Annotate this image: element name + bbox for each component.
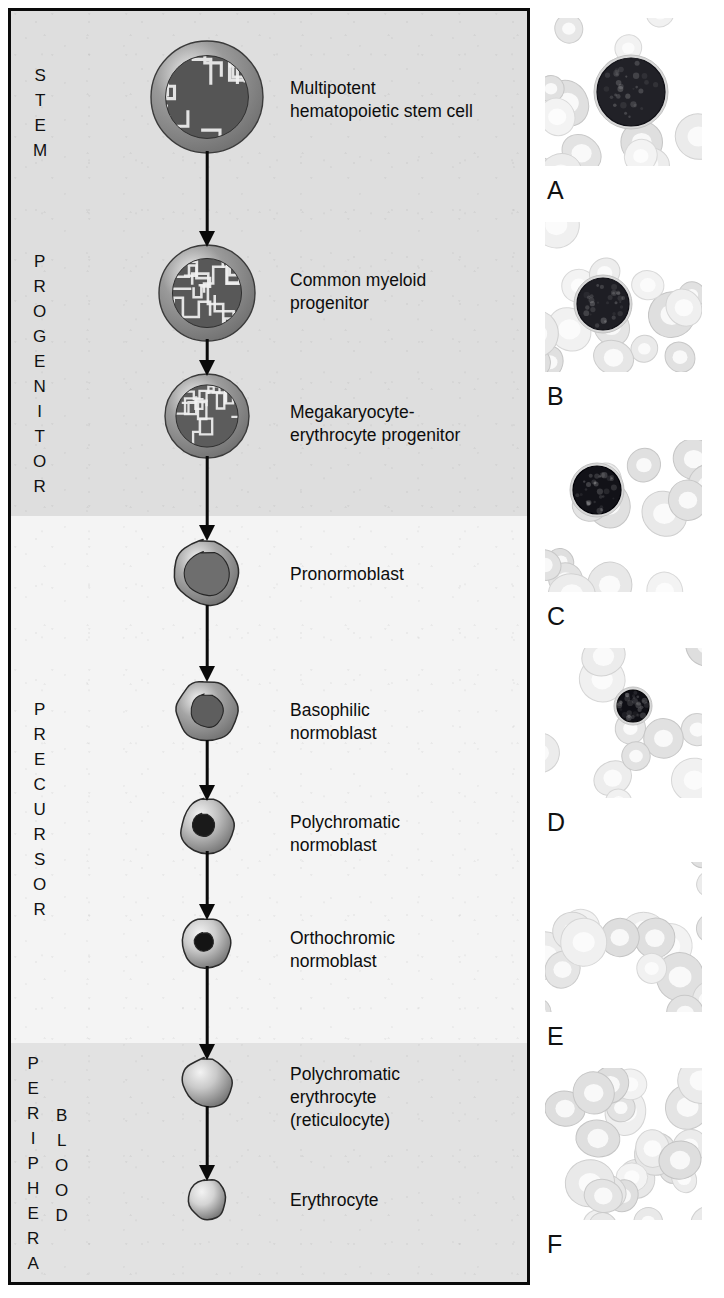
zone-letter: I xyxy=(31,1126,36,1151)
zone-letter: B xyxy=(56,1103,67,1128)
micrograph-canvas xyxy=(545,440,702,592)
cell-label-erythrocyte: Erythrocyte xyxy=(290,1189,379,1212)
micrograph-panel-e xyxy=(545,862,702,1012)
zone-letter: T xyxy=(34,424,44,449)
micrograph-canvas xyxy=(545,18,702,166)
cell-label-multipotent-hematopoietic-stem-cell: Multipotent hematopoietic stem cell xyxy=(290,77,473,123)
zone-letter: O xyxy=(33,299,46,324)
zone-letter: M xyxy=(33,138,47,163)
flow-arrow xyxy=(199,740,215,801)
arrow-head xyxy=(199,666,215,682)
zone-label-precursor: PRECURSOR xyxy=(33,697,46,922)
micrograph-letter-e: E xyxy=(547,1024,564,1049)
zone-letter: G xyxy=(33,324,46,349)
erythropoiesis-figure: STEM PROGENITOR PRECURSOR PERIPHERAL BLO… xyxy=(0,0,724,1298)
zone-letter: S xyxy=(34,63,45,88)
cell-illustration-multipotent-hematopoietic-stem-cell xyxy=(144,34,270,160)
arrow-shaft xyxy=(206,1106,209,1167)
zone-letter: O xyxy=(55,1153,68,1178)
arrow-head xyxy=(199,904,215,920)
arrow-head xyxy=(199,231,215,247)
micrograph-canvas xyxy=(545,648,702,798)
zone-letter: R xyxy=(33,474,45,499)
zone-letter: A xyxy=(27,1251,38,1276)
zone-letter: R xyxy=(27,1101,39,1126)
cell-label-polychromatic-erythrocyte: Polychromatic erythrocyte (reticulocyte) xyxy=(290,1063,400,1132)
cell-node-megakaryocyte-erythrocyte-progenitor xyxy=(158,367,256,469)
arrow-shaft xyxy=(206,339,209,362)
diagram-panel: STEM PROGENITOR PRECURSOR PERIPHERAL BLO… xyxy=(8,8,530,1285)
zone-letter: O xyxy=(55,1178,68,1203)
arrow-head xyxy=(199,1165,215,1181)
flow-arrow xyxy=(199,339,215,376)
zone-letter: H xyxy=(27,1176,39,1201)
zone-label-stem: STEM xyxy=(33,63,47,163)
arrow-shaft xyxy=(206,851,209,906)
zone-letter: R xyxy=(33,897,45,922)
flow-arrow xyxy=(199,605,215,682)
zone-letter: P xyxy=(34,697,45,722)
micrograph-panel-c xyxy=(545,440,702,592)
flow-arrow xyxy=(199,456,215,541)
zone-letter: E xyxy=(34,113,45,138)
cell-illustration-common-myeloid-progenitor xyxy=(152,238,262,348)
cell-label-polychromatic-normoblast: Polychromatic normoblast xyxy=(290,811,400,857)
cell-label-basophilic-normoblast: Basophilic normoblast xyxy=(290,699,377,745)
micrograph-letter-c: C xyxy=(547,604,565,629)
cell-node-multipotent-hematopoietic-stem-cell xyxy=(144,34,270,164)
cell-illustration-pronormoblast xyxy=(166,532,248,614)
arrow-head xyxy=(199,525,215,541)
micrograph-letter-b: B xyxy=(547,384,564,409)
zone-letter: P xyxy=(27,1051,38,1076)
zone-letter: R xyxy=(27,1226,39,1251)
flow-arrow xyxy=(199,851,215,920)
flow-arrow xyxy=(199,1106,215,1181)
arrow-head xyxy=(199,1044,215,1060)
micrograph-panel-d xyxy=(545,648,702,798)
zone-letter: T xyxy=(35,88,45,113)
flow-arrow xyxy=(199,151,215,247)
zone-label-peripheral: PERIPHERAL xyxy=(27,1051,39,1285)
zone-label-blood: BLOOD xyxy=(55,1103,68,1228)
cell-label-common-myeloid-progenitor: Common myeloid progenitor xyxy=(290,269,426,315)
cell-label-pronormoblast: Pronormoblast xyxy=(290,563,404,586)
micrograph-canvas xyxy=(545,1068,702,1220)
zone-letter: E xyxy=(27,1076,38,1101)
zone-letter: O xyxy=(33,872,46,897)
zone-letter: R xyxy=(33,722,45,747)
zone-letter: S xyxy=(34,847,45,872)
micrograph-canvas xyxy=(545,222,702,372)
zone-letter: O xyxy=(33,449,46,474)
zone-letter: L xyxy=(28,1276,37,1285)
flow-arrow xyxy=(199,966,215,1060)
zone-letter: C xyxy=(33,772,45,797)
arrow-shaft xyxy=(206,966,209,1046)
arrow-shaft xyxy=(206,740,209,787)
cell-differentiation-chain: Multipotent hematopoietic stem cellCommo… xyxy=(11,11,527,1282)
zone-letter: E xyxy=(27,1201,38,1226)
zone-letter: N xyxy=(33,374,45,399)
arrow-shaft xyxy=(206,605,209,668)
zone-letter: U xyxy=(33,797,45,822)
micrograph-panel-b xyxy=(545,222,702,372)
zone-letter: P xyxy=(27,1151,38,1176)
micrograph-letter-a: A xyxy=(547,178,564,203)
cell-illustration-megakaryocyte-erythrocyte-progenitor xyxy=(158,367,256,465)
zone-letter: D xyxy=(55,1203,67,1228)
zone-label-progenitor: PROGENITOR xyxy=(33,249,46,499)
micrograph-letter-f: F xyxy=(547,1232,562,1257)
micrograph-letter-d: D xyxy=(547,810,565,835)
micrograph-canvas xyxy=(545,862,702,1012)
arrow-shaft xyxy=(206,456,209,527)
arrow-head xyxy=(199,785,215,801)
zone-letter: E xyxy=(34,349,45,374)
arrow-shaft xyxy=(206,151,209,233)
arrow-head xyxy=(199,360,215,376)
zone-letter: E xyxy=(34,747,45,772)
zone-letter: R xyxy=(33,822,45,847)
zone-letter: R xyxy=(33,274,45,299)
cell-illustration-polychromatic-normoblast xyxy=(173,792,241,860)
cell-label-orthochromic-normoblast: Orthochromic normoblast xyxy=(290,927,395,973)
cell-illustration-basophilic-normoblast xyxy=(169,673,245,749)
zone-letter: L xyxy=(57,1128,66,1153)
